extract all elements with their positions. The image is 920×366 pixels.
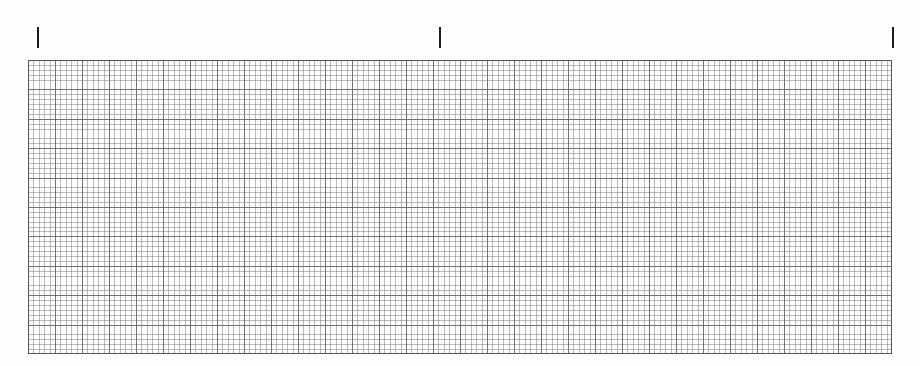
- tick-mark-row: [0, 0, 920, 60]
- graph-paper-grid: [28, 60, 892, 354]
- graph-paper-page: [0, 0, 920, 366]
- tick-mark-left: [37, 27, 39, 48]
- tick-mark-center: [439, 27, 441, 48]
- tick-mark-right: [892, 27, 894, 48]
